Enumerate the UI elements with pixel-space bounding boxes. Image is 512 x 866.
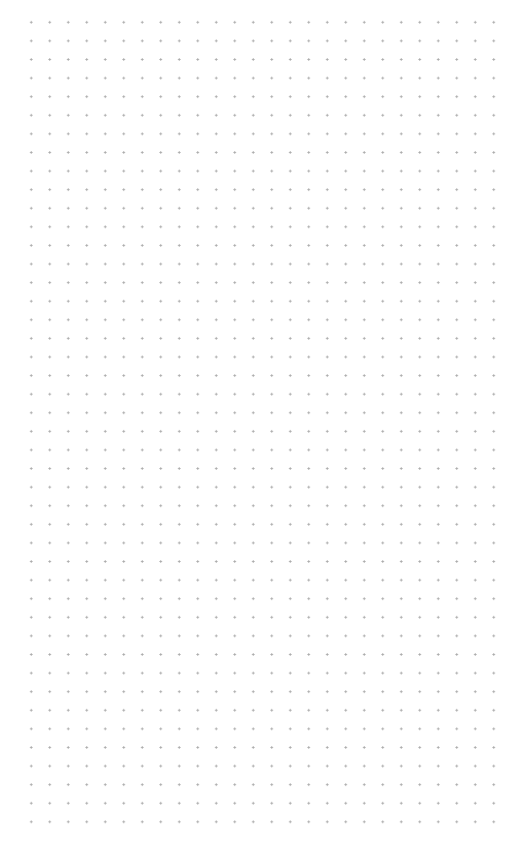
dot-grid-background bbox=[22, 13, 503, 831]
drawing-canvas[interactable] bbox=[0, 0, 512, 866]
